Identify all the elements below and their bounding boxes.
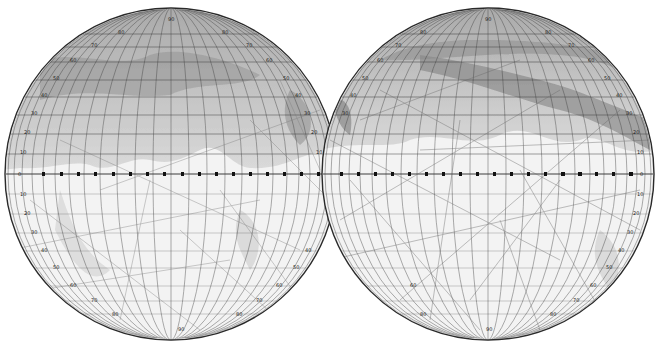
svg-text:0: 0 (18, 171, 21, 177)
svg-text:50: 50 (283, 75, 289, 81)
svg-text:90: 90 (485, 16, 491, 22)
svg-text:60: 60 (266, 57, 272, 63)
svg-text:30: 30 (627, 229, 633, 235)
svg-text:60: 60 (70, 57, 76, 63)
mars-hemisphere-map: 90 80 80 70 70 60 60 50 50 40 40 30 30 2… (0, 0, 658, 352)
svg-text:70: 70 (568, 42, 574, 48)
svg-text:80: 80 (118, 29, 124, 35)
svg-text:40: 40 (350, 92, 356, 98)
west-hemisphere: 90 80 80 70 70 60 60 50 50 40 40 30 30 2… (0, 0, 340, 340)
svg-text:10: 10 (20, 191, 26, 197)
svg-text:50: 50 (604, 75, 610, 81)
svg-text:70: 70 (573, 297, 579, 303)
svg-text:20: 20 (24, 129, 30, 135)
svg-text:50: 50 (53, 75, 59, 81)
svg-text:50: 50 (362, 75, 368, 81)
svg-text:40: 40 (305, 247, 311, 253)
east-hemisphere: 90 80 80 70 70 60 60 50 50 40 40 30 30 2… (320, 0, 658, 340)
svg-text:70: 70 (395, 42, 401, 48)
svg-text:80: 80 (420, 311, 426, 317)
svg-text:30: 30 (31, 110, 37, 116)
svg-text:60: 60 (276, 282, 282, 288)
svg-text:10: 10 (637, 191, 643, 197)
svg-text:20: 20 (311, 129, 317, 135)
svg-text:80: 80 (550, 311, 556, 317)
svg-text:80: 80 (420, 29, 426, 35)
svg-text:30: 30 (342, 110, 348, 116)
svg-text:80: 80 (545, 29, 551, 35)
svg-text:50: 50 (53, 264, 59, 270)
svg-text:20: 20 (633, 129, 639, 135)
svg-text:60: 60 (410, 282, 416, 288)
svg-text:70: 70 (246, 42, 252, 48)
svg-text:40: 40 (616, 92, 622, 98)
svg-text:80: 80 (112, 311, 118, 317)
svg-text:40: 40 (295, 92, 301, 98)
svg-text:30: 30 (31, 229, 37, 235)
svg-text:40: 40 (41, 92, 47, 98)
svg-text:70: 70 (91, 42, 97, 48)
svg-text:30: 30 (304, 110, 310, 116)
svg-text:60: 60 (377, 57, 383, 63)
svg-text:40: 40 (618, 247, 624, 253)
svg-text:30: 30 (626, 110, 632, 116)
svg-text:40: 40 (41, 247, 47, 253)
svg-text:90: 90 (178, 326, 184, 332)
svg-text:70: 70 (256, 297, 262, 303)
svg-text:20: 20 (24, 210, 30, 216)
svg-text:80: 80 (236, 311, 242, 317)
svg-text:90: 90 (168, 16, 174, 22)
svg-text:10: 10 (637, 149, 643, 155)
svg-text:50: 50 (293, 264, 299, 270)
svg-text:60: 60 (590, 282, 596, 288)
svg-text:90: 90 (486, 326, 492, 332)
svg-text:60: 60 (70, 282, 76, 288)
svg-text:10: 10 (316, 149, 322, 155)
svg-text:70: 70 (91, 297, 97, 303)
svg-text:80: 80 (222, 29, 228, 35)
svg-text:20: 20 (633, 210, 639, 216)
svg-text:60: 60 (588, 57, 594, 63)
svg-text:10: 10 (20, 149, 26, 155)
svg-text:50: 50 (606, 264, 612, 270)
svg-text:0: 0 (640, 171, 643, 177)
